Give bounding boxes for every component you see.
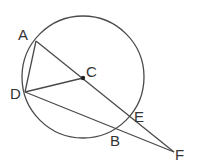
- segment-af: [36, 41, 174, 152]
- label-f: F: [175, 146, 184, 163]
- label-c: C: [86, 63, 97, 80]
- label-a: A: [18, 26, 28, 43]
- segment-ad: [25, 41, 36, 92]
- label-b: B: [110, 132, 120, 149]
- geometry-diagram: A C D E B F: [0, 0, 197, 167]
- segment-dc: [25, 78, 83, 92]
- label-d: D: [10, 85, 21, 102]
- label-e: E: [134, 108, 144, 125]
- center-point-c: [81, 76, 85, 80]
- segment-df: [25, 92, 174, 152]
